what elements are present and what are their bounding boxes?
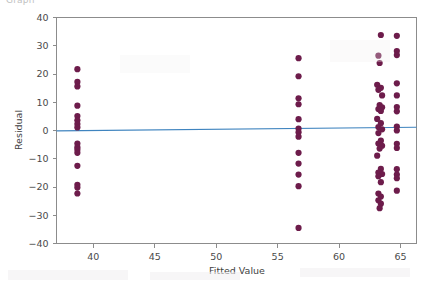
x-tick-label: 45 bbox=[149, 251, 161, 262]
scatter-point bbox=[394, 33, 400, 39]
clipped-caption-text: Graph bbox=[6, 0, 35, 5]
y-tick-label: 10 bbox=[36, 97, 48, 108]
x-tick-label: 50 bbox=[210, 251, 222, 262]
scatter-point bbox=[375, 130, 381, 136]
zero-reference-line bbox=[57, 127, 417, 131]
scatter-point bbox=[394, 80, 400, 86]
scatter-point bbox=[394, 188, 400, 194]
scatter-point bbox=[74, 184, 80, 190]
y-tick-label: −10 bbox=[28, 153, 48, 164]
scatter-point bbox=[375, 87, 381, 93]
scatter-point bbox=[74, 150, 80, 156]
scatter-point bbox=[394, 127, 400, 133]
y-axis-ticks: 403020100−10−20−30−40 bbox=[28, 12, 56, 249]
scatter-plot-svg: 403020100−10−20−30−40 404550556065 Resid… bbox=[0, 0, 435, 298]
scatter-point bbox=[378, 179, 384, 185]
y-tick-label: −30 bbox=[28, 210, 48, 221]
reference-line bbox=[57, 127, 417, 131]
y-axis-title: Residual bbox=[13, 110, 24, 150]
scatter-point bbox=[295, 95, 301, 101]
scatter-point bbox=[74, 103, 80, 109]
data-points bbox=[74, 32, 400, 231]
scatter-point bbox=[378, 32, 384, 38]
scatter-point bbox=[394, 52, 400, 58]
scatter-point bbox=[74, 66, 80, 72]
scatter-point bbox=[295, 116, 301, 122]
y-tick-label: −40 bbox=[28, 238, 48, 249]
scatter-point bbox=[295, 101, 301, 107]
scatter-point bbox=[394, 145, 400, 151]
scatter-point bbox=[295, 134, 301, 140]
scatter-point bbox=[375, 53, 381, 59]
scatter-point bbox=[377, 60, 383, 66]
x-tick-label: 55 bbox=[272, 251, 284, 262]
scatter-point bbox=[377, 145, 383, 151]
scatter-point bbox=[394, 108, 400, 114]
y-tick-label: −20 bbox=[28, 181, 48, 192]
scatter-point bbox=[74, 190, 80, 196]
scatter-point bbox=[375, 173, 381, 179]
x-tick-label: 60 bbox=[333, 251, 345, 262]
scatter-point bbox=[374, 153, 380, 159]
scatter-point bbox=[295, 160, 301, 166]
x-tick-label: 40 bbox=[87, 251, 99, 262]
scatter-point bbox=[74, 83, 80, 89]
x-tick-label: 65 bbox=[394, 251, 406, 262]
scatter-point bbox=[378, 108, 384, 114]
scatter-point bbox=[394, 175, 400, 181]
residual-plot: Graph 403020100−10−20−30−40 404550556065… bbox=[0, 0, 435, 298]
y-tick-label: 0 bbox=[42, 125, 48, 136]
scatter-point bbox=[295, 150, 301, 156]
scatter-point bbox=[379, 92, 385, 98]
x-axis-ticks: 404550556065 bbox=[87, 244, 406, 262]
y-tick-label: 40 bbox=[36, 12, 48, 23]
y-tick-label: 30 bbox=[36, 40, 48, 51]
scatter-point bbox=[295, 171, 301, 177]
y-tick-label: 20 bbox=[36, 68, 48, 79]
scatter-point bbox=[295, 55, 301, 61]
x-axis-title: Fitted Value bbox=[209, 265, 265, 276]
scatter-point bbox=[74, 124, 80, 130]
scatter-point bbox=[295, 183, 301, 189]
scatter-point bbox=[394, 92, 400, 98]
scatter-point bbox=[74, 163, 80, 169]
scatter-point bbox=[295, 73, 301, 79]
scatter-point bbox=[394, 166, 400, 172]
scatter-point bbox=[377, 205, 383, 211]
scatter-point bbox=[295, 225, 301, 231]
